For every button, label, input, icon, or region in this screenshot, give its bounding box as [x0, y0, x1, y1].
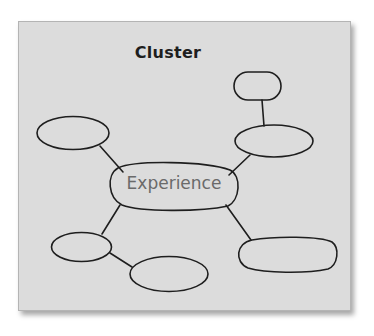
- center-node-label: Experience: [112, 173, 236, 193]
- edge-lower-left-to-bottom-center: [110, 253, 132, 267]
- node-upper-left: [37, 117, 109, 150]
- node-top-right-small: [234, 72, 281, 100]
- edge-right-middle-to-top-right: [262, 100, 264, 126]
- node-bottom-right: [239, 237, 337, 272]
- node-bottom-center: [130, 257, 208, 292]
- edge-center-to-bottom-right: [226, 205, 251, 240]
- edge-center-to-lower-left: [102, 205, 120, 234]
- diagram-title: Cluster: [118, 43, 218, 62]
- node-lower-left: [52, 233, 112, 262]
- node-right-middle: [235, 125, 313, 157]
